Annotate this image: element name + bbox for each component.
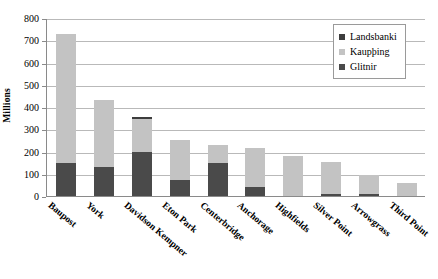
bar-group: [170, 140, 190, 196]
bar-group: [94, 100, 114, 196]
bar-group: [321, 162, 341, 196]
y-tick-label: 0: [34, 190, 39, 203]
bar-segment: [208, 145, 228, 163]
y-tick-label: 800: [24, 12, 39, 25]
bar-segment: [321, 194, 341, 196]
bar-group: [359, 175, 379, 196]
x-axis-label: Arrowgrass: [349, 200, 393, 239]
y-axis-ticks: 8007006005004003002001000: [0, 19, 46, 197]
x-axis-label: Davidson Kempner: [122, 200, 190, 259]
y-tick-label: 200: [24, 146, 39, 159]
legend-swatch: [339, 34, 345, 40]
legend-item: Landsbanki: [339, 29, 397, 44]
y-tick-label: 600: [24, 57, 39, 70]
bar-segment: [170, 180, 190, 196]
stacked-bar-chart: Millions 8007006005004003002001000 Baupo…: [0, 0, 438, 279]
y-tick-label: 100: [24, 168, 39, 181]
x-axis-labels: BaupostYorkDavidson KempnerEton ParkCent…: [46, 197, 425, 279]
bar-segment: [132, 119, 152, 151]
x-axis-label: Baupost: [46, 200, 79, 230]
x-axis-label: York: [84, 200, 106, 221]
y-tick-label: 300: [24, 123, 39, 136]
legend-swatch: [339, 49, 345, 55]
x-axis-label: Highfields: [273, 200, 312, 235]
legend-item: Kaupþing: [339, 44, 397, 59]
bar-segment: [94, 167, 114, 196]
legend-label: Glitnir: [350, 61, 377, 73]
bar-segment: [56, 163, 76, 196]
x-axis-label: Silver Point: [311, 200, 355, 239]
y-tick-label: 500: [24, 79, 39, 92]
bar-segment: [321, 162, 341, 195]
bar-segment: [170, 140, 190, 180]
bar-group: [283, 156, 303, 196]
y-tick-label: 400: [24, 101, 39, 114]
x-axis-label: Third Point: [387, 200, 431, 239]
bar-segment: [245, 187, 265, 196]
y-tick-label: 700: [24, 34, 39, 47]
legend-label: Landsbanki: [350, 31, 397, 43]
bar-segment: [56, 34, 76, 163]
bar-segment: [94, 100, 114, 167]
bar-segment: [283, 156, 303, 196]
legend-swatch: [339, 64, 345, 70]
bar-group: [208, 145, 228, 196]
bar-group: [56, 34, 76, 196]
bar-segment: [208, 163, 228, 196]
legend-label: Kaupþing: [350, 46, 389, 58]
bar-segment: [359, 194, 379, 196]
legend-item: Glitnir: [339, 59, 397, 74]
chart-legend: LandsbankiKaupþingGlitnir: [333, 24, 406, 79]
bar-group: [397, 183, 417, 196]
bar-segment: [132, 152, 152, 197]
bar-group: [132, 117, 152, 196]
bar-segment: [397, 183, 417, 196]
bar-group: [245, 148, 265, 196]
bar-segment: [359, 175, 379, 194]
bar-segment: [245, 148, 265, 187]
